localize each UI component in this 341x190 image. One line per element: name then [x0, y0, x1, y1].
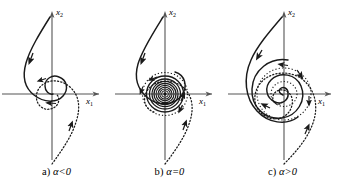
caption-a-expression: α<0	[53, 166, 71, 177]
x-axis-label-c: x1	[317, 96, 325, 107]
axes-c	[228, 11, 331, 160]
caption-c-prefix: c)	[268, 166, 276, 177]
phase-portrait-a: x1 x2	[0, 0, 113, 170]
caption-panel-b: b) α=0	[113, 166, 226, 177]
y-axis-label-b: x2	[168, 7, 176, 18]
caption-a-prefix: a)	[42, 166, 50, 177]
trajectory-a-dotted	[36, 79, 78, 165]
y-axis-label-c: x2	[287, 7, 295, 18]
caption-b-prefix: b)	[155, 166, 164, 177]
caption-c-expression: α>0	[279, 166, 297, 177]
phase-portrait-b: x1 x2	[113, 0, 226, 170]
axes-a	[2, 11, 99, 160]
caption-panel-c: c) α>0	[226, 166, 339, 177]
panel-alpha-zero: x1 x2 b) α=0	[113, 0, 226, 190]
x-axis-label-b: x1	[198, 96, 206, 107]
trajectory-a-solid	[24, 17, 66, 104]
x-axis-label-a: x1	[85, 96, 93, 107]
panel-alpha-negative: x1 x2 a) α<0	[0, 0, 113, 190]
phase-portrait-c: x1 x2	[226, 0, 341, 170]
caption-panel-a: a) α<0	[0, 166, 113, 177]
hopf-bifurcation-figure: x1 x2 a) α<0	[0, 0, 341, 190]
caption-b-expression: α=0	[166, 166, 184, 177]
equilibrium-point-b	[163, 92, 166, 95]
trajectory-c-solid-outer-branch	[246, 17, 298, 122]
trajectory-c-solid-outward	[252, 60, 303, 119]
y-axis-label-a: x2	[55, 7, 63, 18]
panel-alpha-positive: x1 x2 c) α>0	[226, 0, 339, 190]
